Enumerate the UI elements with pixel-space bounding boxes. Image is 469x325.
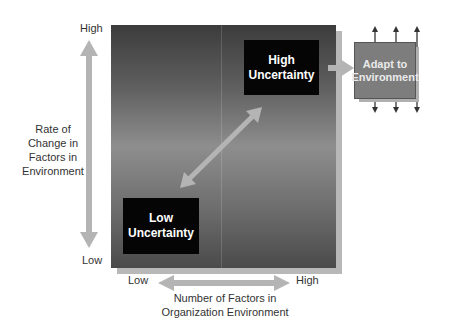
low-uncertainty-line: Low: [128, 211, 194, 226]
right-arrow-icon: [328, 59, 354, 77]
x-axis-arrow-icon: [158, 275, 290, 291]
diagonal-arrow-icon: [180, 107, 262, 188]
adapt-to-environment-box: Adapt to Environment: [354, 42, 416, 99]
x-axis-low-label: Low: [128, 274, 148, 286]
y-axis-arrow-icon: [80, 40, 98, 248]
low-uncertainty-line: Uncertainty: [128, 226, 194, 241]
x-axis-title: Number of Factors in Organization Enviro…: [160, 291, 290, 319]
x-axis-high-label: High: [296, 274, 319, 286]
high-uncertainty-line: High: [248, 53, 314, 68]
high-uncertainty-box: High Uncertainty: [244, 40, 319, 95]
adapt-line: Adapt to: [351, 58, 418, 71]
low-uncertainty-box: Low Uncertainty: [123, 198, 199, 254]
high-uncertainty-line: Uncertainty: [248, 68, 314, 83]
x-axis-title-line: Number of Factors in: [160, 291, 290, 305]
adapt-line: Environment: [351, 71, 418, 84]
x-axis-title-line: Organization Environment: [160, 305, 290, 319]
